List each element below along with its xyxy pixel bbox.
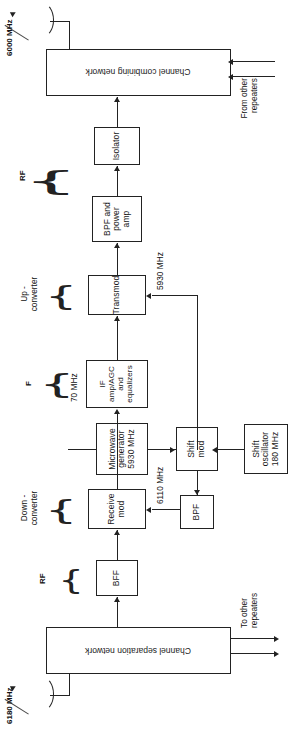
from-other-repeaters-label-line2: repeaters [249, 78, 259, 113]
receive-antenna-mast [50, 695, 70, 696]
receive-antenna-frequency-label: 6180 MHz [5, 688, 14, 724]
arrow-into-bff [114, 597, 120, 602]
to-other-repeaters-wire-1 [231, 653, 275, 654]
from-other-repeaters-label: From other repeaters [240, 78, 259, 132]
down-converter-brace: { [44, 497, 77, 523]
down-converter-label-line1: Down - [19, 495, 29, 521]
to-other-repeaters-label-line1: To other [239, 598, 249, 628]
power-amp-line2: power [111, 207, 121, 231]
arrow-into-shift-mod [212, 447, 217, 453]
power-amp-line1: BPF and [102, 202, 112, 236]
wire-bpf-to-receive-mod [152, 509, 180, 510]
block-isolator: Isolator [94, 127, 140, 165]
if-amp-line1: IF amp/AGC [98, 366, 116, 402]
to-other-repeaters-label-line2: repeaters [249, 593, 259, 628]
transmit-antenna-feed [69, 21, 70, 49]
transmit-beam-arrow [8, 10, 15, 18]
block-transmod: Transmod [88, 275, 146, 315]
receive-mod-text: Receive mod [106, 493, 126, 524]
block-receive-mod-label: Receive mod [107, 491, 127, 527]
diagram-viewport: 6180 MHz Channel separation network To o… [0, 0, 308, 732]
down-converter-label-line2: converter [29, 491, 39, 526]
rf-receive-brace: { [58, 567, 84, 593]
up-converter-label-line2: converter [29, 277, 39, 312]
rf-transmit-brace: { [23, 168, 79, 194]
block-microwave-generator: Microwave generator 5930 MHz [96, 423, 148, 475]
microwave-gen-line1: Microwave [107, 428, 117, 470]
up-converter-label-line1: Up - [19, 286, 29, 302]
arrow-into-shift-mod-from-gen [170, 447, 175, 453]
channel-separation-network: Channel separation network [46, 627, 231, 674]
wire-if-to-transmod [117, 316, 118, 360]
arrow-into-transmod [114, 316, 120, 321]
shift-osc-line1: Shift [251, 440, 261, 458]
microwave-gen-line3: 5930 MHz [126, 429, 136, 469]
wire-receive-mod-to-if [117, 413, 118, 489]
down-converter-label: Down - converter [20, 480, 39, 536]
arrow-into-combining-network [114, 97, 120, 102]
channel-combining-network-label: Channel combining network [86, 68, 191, 78]
rf-transmit-label: RF [18, 170, 27, 181]
to-other-repeaters-arrow-1 [274, 651, 279, 657]
block-shift-oscillator-label: Shift oscillator 180 MHz [252, 432, 281, 467]
frequency-label-6110: 6110 MHz [156, 467, 166, 504]
block-microwave-generator-label: Microwave generator 5930 MHz [108, 428, 137, 470]
block-shift-oscillator: Shift oscillator 180 MHz [244, 424, 288, 474]
arrow-into-receive-mod-lo [146, 507, 151, 513]
block-receive-mod: Receive mod [88, 489, 146, 529]
from-other-repeaters-label-line1: From other [239, 78, 249, 119]
frequency-label-70: 70 MHz [70, 373, 80, 402]
rf-receive-label: RF [38, 573, 47, 584]
up-converter-label: Up - converter [20, 266, 39, 322]
shift-osc-line2: oscillator [260, 432, 270, 467]
block-bpf-power-amp: BPF and power amp [92, 196, 142, 242]
arrow-into-isolator [114, 166, 120, 171]
wire-transmod-lo-horizontal [197, 295, 198, 450]
block-bff-label: BFF [112, 570, 122, 586]
shift-osc-line3: 180 MHz [270, 432, 280, 467]
to-other-repeaters-label: To other repeaters [240, 572, 259, 628]
shift-mod-line1: Shift [186, 440, 196, 458]
arrow-into-if-amp [114, 409, 120, 414]
to-other-repeaters-arrow-2 [274, 636, 279, 642]
block-isolator-label: Isolator [112, 132, 122, 161]
from-other-repeaters-arrow-2 [228, 59, 233, 65]
arrow-into-power-amp [114, 243, 120, 248]
frequency-label-5930: 5930 MHz [156, 252, 166, 290]
transmit-antenna-frequency-label: 6000 MHz [5, 20, 14, 56]
transmit-antenna-icon [28, 2, 54, 38]
if-amp-line2: and [116, 377, 125, 391]
block-transmod-label: Transmod [112, 276, 122, 315]
wire-shift-osc-to-shift-mod [218, 449, 244, 450]
from-other-repeaters-wire-2 [231, 61, 275, 62]
to-other-repeaters-wire-2 [231, 638, 275, 639]
arrow-into-bpf [194, 490, 200, 495]
channel-separation-network-label: Channel separation network [86, 646, 192, 656]
if-group-label: F [24, 381, 33, 386]
if-amp-line3: equalizers [125, 365, 134, 402]
from-other-repeaters-wire-1 [231, 76, 275, 77]
block-if-amp-label: IF amp/AGC and equalizers [99, 362, 135, 406]
block-bff: BFF [96, 560, 138, 596]
block-bpf-label: BPF [192, 504, 202, 521]
up-converter-brace: { [44, 283, 77, 309]
block-bpf-power-amp-label: BPF and power amp [103, 202, 132, 236]
wire-gen-up [68, 449, 96, 450]
from-other-repeaters-arrow-1 [228, 74, 233, 80]
block-bpf: BPF [180, 495, 214, 529]
power-amp-line3: amp [121, 211, 131, 228]
wire-transmod-lo-vertical [152, 295, 198, 296]
arrow-into-receive-mod [114, 530, 120, 535]
channel-combining-network: Channel combining network [46, 49, 231, 96]
arrow-into-transmod-lo [146, 293, 151, 299]
block-if-amp: IF amp/AGC and equalizers [86, 360, 148, 408]
diagram-canvas: 6180 MHz Channel separation network To o… [0, 0, 308, 732]
